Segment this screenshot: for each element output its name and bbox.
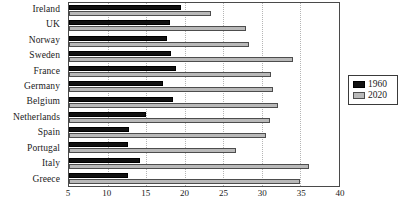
category-label: Italy <box>0 156 64 171</box>
category-axis: IrelandUKNorwaySwedenFranceGermanyBelgiu… <box>0 2 64 187</box>
x-tick-label: 10 <box>102 189 111 198</box>
bar-group <box>69 171 339 186</box>
bar-2020 <box>69 87 273 92</box>
bar-1960 <box>69 127 129 132</box>
legend-swatch-icon <box>353 81 365 88</box>
x-tick-label: 40 <box>336 189 345 198</box>
bar-2020 <box>69 42 249 47</box>
category-label: Spain <box>0 125 64 140</box>
legend-entry[interactable]: 1960 <box>353 80 393 90</box>
category-label: Greece <box>0 172 64 187</box>
x-tick-label: 5 <box>66 189 71 198</box>
bar-1960 <box>69 142 128 147</box>
bar-group <box>69 34 339 49</box>
bar-group <box>69 18 339 33</box>
bar-1960 <box>69 158 140 163</box>
bar-1960 <box>69 66 176 71</box>
bar-chart: IrelandUKNorwaySwedenFranceGermanyBelgiu… <box>0 0 405 213</box>
x-tick-label: 15 <box>141 189 150 198</box>
bar-group <box>69 156 339 171</box>
x-tick-label: 35 <box>297 189 306 198</box>
category-label: France <box>0 64 64 79</box>
category-label: Norway <box>0 33 64 48</box>
bar-2020 <box>69 133 266 138</box>
category-label: Portugal <box>0 141 64 156</box>
bar-2020 <box>69 179 300 184</box>
bar-group <box>69 64 339 79</box>
legend-entry[interactable]: 2020 <box>353 91 393 101</box>
bar-group <box>69 95 339 110</box>
bar-1960 <box>69 173 128 178</box>
chart-legend: 19602020 <box>348 75 398 105</box>
bar-2020 <box>69 164 309 169</box>
bar-group <box>69 49 339 64</box>
legend-label: 1960 <box>368 80 387 90</box>
x-tick-label: 20 <box>180 189 189 198</box>
bar-2020 <box>69 57 293 62</box>
bar-group <box>69 79 339 94</box>
legend-swatch-icon <box>353 92 365 99</box>
bar-2020 <box>69 148 236 153</box>
bar-group <box>69 125 339 140</box>
bar-1960 <box>69 51 171 56</box>
bar-group <box>69 3 339 18</box>
x-tick-label: 25 <box>219 189 228 198</box>
plot-area <box>68 2 340 187</box>
bar-1960 <box>69 112 146 117</box>
x-tick-label: 30 <box>258 189 267 198</box>
category-label: Germany <box>0 79 64 94</box>
bar-1960 <box>69 5 181 10</box>
bar-1960 <box>69 20 170 25</box>
bar-2020 <box>69 118 270 123</box>
category-label: Netherlands <box>0 110 64 125</box>
bar-1960 <box>69 81 163 86</box>
category-label: Sweden <box>0 48 64 63</box>
value-axis: 510152025303540 <box>68 188 340 208</box>
bar-2020 <box>69 11 211 16</box>
category-label: Belgium <box>0 95 64 110</box>
legend-label: 2020 <box>368 91 387 101</box>
category-label: Ireland <box>0 2 64 17</box>
bar-2020 <box>69 72 271 77</box>
bar-group <box>69 110 339 125</box>
bar-1960 <box>69 36 167 41</box>
bar-group <box>69 140 339 155</box>
category-label: UK <box>0 17 64 32</box>
bar-1960 <box>69 97 173 102</box>
bar-2020 <box>69 26 246 31</box>
bars-layer <box>69 3 339 186</box>
bar-2020 <box>69 103 278 108</box>
